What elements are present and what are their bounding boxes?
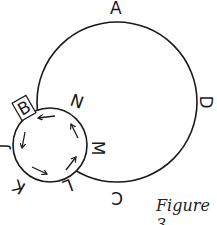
label-k: K — [8, 175, 28, 198]
figure-caption: Figure 3 — [156, 196, 217, 225]
label-j: J — [0, 143, 11, 149]
diagram-canvas: A D C B N M L K J — [0, 0, 217, 225]
label-l: L — [60, 175, 76, 197]
label-d: D — [196, 95, 216, 108]
label-m: M — [88, 141, 108, 156]
label-n: N — [68, 90, 87, 113]
label-a: A — [110, 0, 122, 18]
label-c: C — [111, 188, 123, 208]
